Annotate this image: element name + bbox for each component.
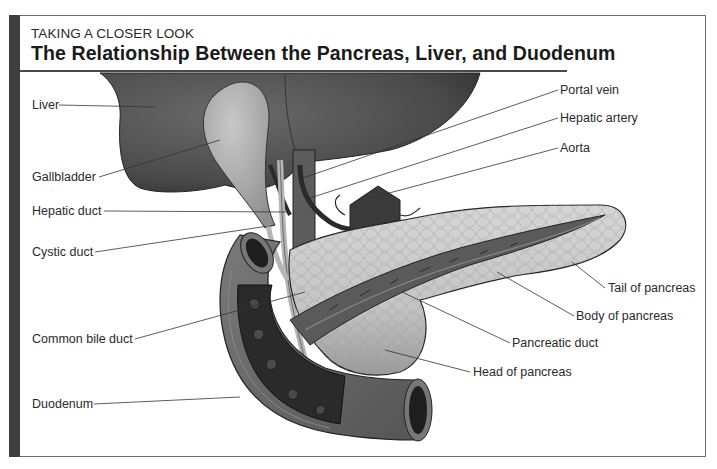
label-tail-of-pancreas: Tail of pancreas <box>608 281 696 295</box>
label-gallbladder: Gallbladder <box>32 170 96 184</box>
label-liver: Liver <box>32 98 59 112</box>
label-hepatic-artery: Hepatic artery <box>560 111 638 125</box>
label-head-of-pancreas: Head of pancreas <box>473 365 572 379</box>
label-aorta: Aorta <box>560 141 590 155</box>
label-duodenum: Duodenum <box>32 397 93 411</box>
label-body-of-pancreas: Body of pancreas <box>576 309 673 323</box>
label-hepatic-duct: Hepatic duct <box>32 204 101 218</box>
label-cystic-duct: Cystic duct <box>32 245 93 259</box>
anatomy-illustration <box>0 0 717 469</box>
label-pancreatic-duct: Pancreatic duct <box>512 336 598 350</box>
label-portal-vein: Portal vein <box>560 83 619 97</box>
liver-shape <box>100 73 480 192</box>
label-common-bile-duct: Common bile duct <box>32 332 133 346</box>
